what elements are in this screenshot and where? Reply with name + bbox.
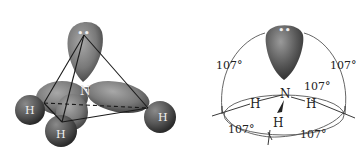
wedge-bond <box>277 100 284 113</box>
bond-angle-schematic: •• N H H H 107° 107° 107° 107° 107° <box>212 24 357 145</box>
lone-pair-dots-3d: •• <box>77 27 90 40</box>
angle-label-upper-left: 107° <box>216 59 243 72</box>
space-filling-model: •• N H H H <box>15 22 176 147</box>
hydrogen-label-left: H <box>250 97 260 111</box>
angle-label-upper-right: 107° <box>330 59 357 72</box>
lone-pair-dots-2d: •• <box>278 24 291 37</box>
angle-label-lower-left: 107° <box>228 123 255 136</box>
hydrogen-label-3d-front: H <box>56 128 66 141</box>
hydrogen-label-right: H <box>306 97 316 111</box>
angle-label-lower-right: 107° <box>300 128 327 141</box>
angle-label-mid-right: 107° <box>304 80 331 93</box>
hydrogen-label-3d-right: H <box>158 111 168 124</box>
ammonia-figure: •• N H H H •• <box>0 0 363 158</box>
hydrogen-label-3d-left: H <box>25 104 35 117</box>
nitrogen-label: N <box>280 87 291 101</box>
hydrogen-label-front: H <box>273 116 283 130</box>
bond-lobe-right <box>84 76 153 119</box>
nitrogen-label-3d: N <box>80 84 91 98</box>
